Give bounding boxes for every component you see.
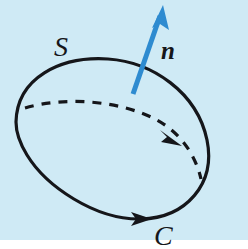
normal-vector-label-n: n bbox=[161, 38, 175, 63]
boundary-curve-label-c: C bbox=[154, 222, 173, 249]
dashed-curve-arrowhead bbox=[160, 130, 182, 146]
normal-vector-arrowhead bbox=[152, 5, 169, 30]
normal-vector-shaft bbox=[133, 16, 160, 94]
surface-label-s: S bbox=[54, 33, 68, 61]
surface-hidden-edge-dashed bbox=[25, 101, 201, 179]
boundary-curve-c bbox=[16, 59, 209, 219]
